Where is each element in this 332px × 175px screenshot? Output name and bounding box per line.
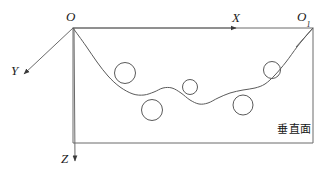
x-axis-label: X (232, 11, 240, 24)
y-axis (24, 28, 73, 74)
vertical-plane-annotation: 垂直面 (277, 124, 312, 135)
inclusion-circles-group (115, 62, 281, 121)
inclusion-4 (233, 95, 253, 115)
profile-curve (73, 28, 313, 104)
inclusion-5 (264, 62, 281, 79)
origin-secondary-letter: O (297, 9, 306, 24)
inclusion-1 (115, 63, 136, 84)
inclusion-2 (142, 100, 163, 121)
z-axis (74, 28, 75, 161)
diagram-canvas (0, 0, 332, 175)
origin-secondary-label: O1 (297, 10, 310, 27)
z-axis-label: Z (61, 152, 68, 165)
figure-container: O O1 X Y Z 垂直面 (0, 0, 332, 175)
origin-secondary-subscript: 1 (306, 20, 310, 29)
inclusion-3 (183, 80, 198, 95)
origin-label: O (66, 10, 75, 23)
y-axis-label: Y (11, 64, 18, 77)
